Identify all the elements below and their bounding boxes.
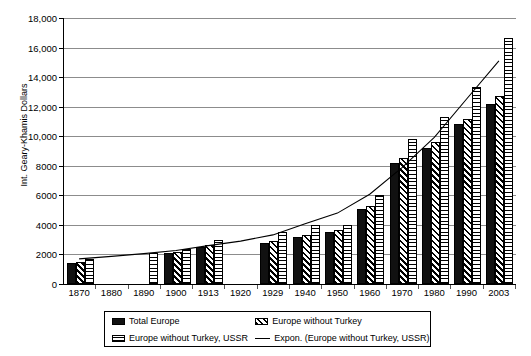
x-axis-tick-label: 1900 [165, 287, 186, 298]
x-axis-tick-label: 1920 [230, 287, 251, 298]
chart-container: Int. Geary-Khamis Dollars 02000400060008… [0, 0, 531, 356]
y-axis-tick-mark [59, 18, 63, 19]
x-axis-tick-label: 1980 [424, 287, 445, 298]
y-axis-tick-mark [59, 107, 63, 108]
legend-label-exponential-trend: Expon. (Europe without Turkey, USSR) [274, 333, 429, 343]
y-axis-tick-mark [59, 136, 63, 137]
legend-entry-total-europe: Total Europe [105, 312, 248, 329]
y-axis-tick-label: 6000 [36, 190, 57, 201]
y-axis-tick-mark [59, 166, 63, 167]
legend-swatch-europe-without-turkey-ussr [112, 335, 125, 342]
x-axis-tick-mark [515, 285, 516, 289]
y-axis-tick-mark [59, 225, 63, 226]
y-axis-tick-label: 4000 [36, 219, 57, 230]
chart-legend: Total Europe Europe without Turkey Europ… [104, 311, 431, 347]
x-axis-tick-mark [289, 285, 290, 289]
y-axis-tick-mark [59, 284, 63, 285]
legend-label-europe-without-turkey-ussr: Europe without Turkey, USSR [129, 333, 248, 343]
x-axis-tick-labels: 1870188018901900191319201929194019501960… [63, 287, 515, 303]
x-axis-tick-label: 1870 [69, 287, 90, 298]
y-axis-tick-label: 2000 [36, 249, 57, 260]
x-axis-tick-mark [95, 285, 96, 289]
y-axis-tick-labels: 0200040006000800010,00012,00014,00016,00… [0, 18, 60, 284]
x-axis-tick-label: 1940 [295, 287, 316, 298]
y-axis-tick-label: 14,000 [28, 72, 57, 83]
legend-swatch-exponential-trend [255, 338, 270, 339]
x-axis-tick-label: 1890 [133, 287, 154, 298]
x-axis-tick-label: 1929 [262, 287, 283, 298]
x-axis-tick-mark [450, 285, 451, 289]
y-axis-tick-label: 18,000 [28, 13, 57, 24]
x-axis-tick-mark [386, 285, 387, 289]
x-axis-tick-mark [354, 285, 355, 289]
x-axis-tick-label: 1960 [359, 287, 380, 298]
legend-entry-europe-without-turkey: Europe without Turkey [248, 312, 430, 329]
x-axis-tick-mark [321, 285, 322, 289]
x-axis-tick-mark [257, 285, 258, 289]
x-axis-tick-mark [224, 285, 225, 289]
y-axis-tick-label: 12,000 [28, 101, 57, 112]
y-axis-tick-label: 10,000 [28, 131, 57, 142]
y-axis-tick-label: 0 [52, 279, 57, 290]
y-axis-tick-mark [59, 48, 63, 49]
x-axis-tick-label: 2003 [488, 287, 509, 298]
x-axis-tick-label: 1970 [391, 287, 412, 298]
x-axis-tick-mark [418, 285, 419, 289]
x-axis-tick-mark [192, 285, 193, 289]
x-axis-tick-mark [160, 285, 161, 289]
legend-label-europe-without-turkey: Europe without Turkey [272, 316, 362, 326]
legend-swatch-total-europe [112, 318, 125, 325]
legend-entry-europe-without-turkey-ussr: Europe without Turkey, USSR [105, 329, 248, 346]
y-axis-tick-mark [59, 195, 63, 196]
trendline-layer [63, 18, 515, 284]
y-axis-tick-mark [59, 77, 63, 78]
x-axis-tick-label: 1990 [456, 287, 477, 298]
x-axis-tick-mark [483, 285, 484, 289]
y-axis-tick-mark [59, 254, 63, 255]
y-axis-tick-label: 16,000 [28, 42, 57, 53]
legend-entry-exponential-trend: Expon. (Europe without Turkey, USSR) [248, 329, 430, 346]
x-axis-tick-label: 1913 [198, 287, 219, 298]
x-axis-tick-mark [128, 285, 129, 289]
x-axis-tick-label: 1950 [327, 287, 348, 298]
legend-swatch-europe-without-turkey [255, 318, 268, 325]
y-axis-tick-label: 8000 [36, 160, 57, 171]
x-axis-tick-label: 1880 [101, 287, 122, 298]
exponential-trendline [79, 61, 499, 259]
legend-label-total-europe: Total Europe [129, 316, 180, 326]
